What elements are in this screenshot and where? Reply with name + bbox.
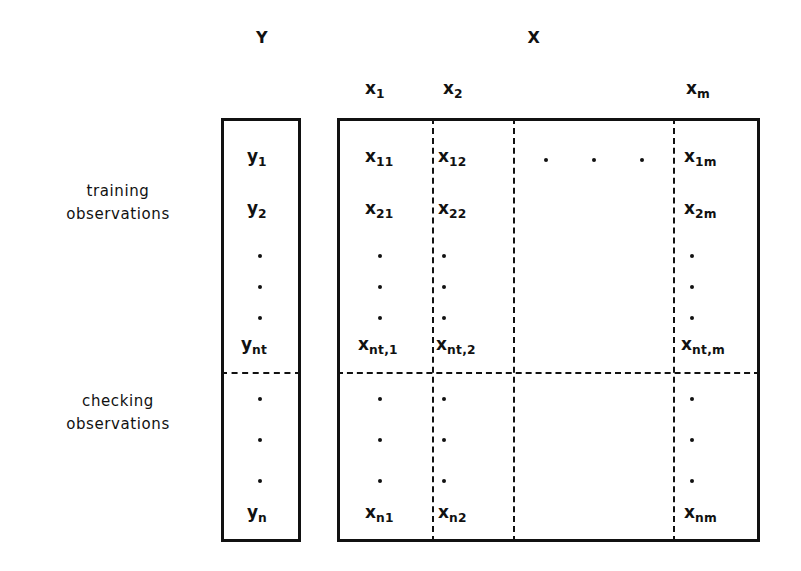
x-cell-nm-base: x bbox=[684, 502, 695, 522]
column-header-x2-base: x bbox=[443, 78, 454, 98]
row-group-label-checking-line2: observations bbox=[28, 413, 208, 436]
x-cell-nt-2-base: x bbox=[436, 334, 447, 354]
x-cell-2m-sub: 2m bbox=[695, 207, 717, 221]
x-colm-train-dot-3 bbox=[690, 316, 694, 320]
y-train-check-divider bbox=[221, 372, 301, 374]
y-cell-2-sub: 2 bbox=[258, 207, 267, 221]
x-row1-hdot-2 bbox=[592, 158, 596, 162]
x-col2-check-dot-3 bbox=[442, 479, 446, 483]
x-column-divider-3 bbox=[673, 118, 675, 542]
x-cell-nm-sub: nm bbox=[695, 511, 717, 525]
x-cell-21-sub: 21 bbox=[376, 207, 394, 221]
y-cell-n-sub: n bbox=[258, 511, 267, 525]
x-cell-nt-2: xnt,2 bbox=[436, 336, 476, 356]
x-matrix-box bbox=[337, 118, 760, 542]
x-cell-nt-m-sub: nt,m bbox=[692, 343, 725, 357]
x-cell-2m-base: x bbox=[684, 198, 695, 218]
x-cell-nm: xnm bbox=[684, 504, 717, 524]
column-header-xm-sub: m bbox=[697, 87, 710, 101]
x-cell-11: x11 bbox=[365, 148, 394, 168]
x-cell-22-base: x bbox=[438, 198, 449, 218]
x-column-divider-1 bbox=[432, 118, 434, 542]
x-cell-22-sub: 22 bbox=[449, 207, 467, 221]
x-col2-train-dot-3 bbox=[442, 316, 446, 320]
y-cell-nt-base: y bbox=[241, 334, 252, 354]
column-header-xm-base: x bbox=[686, 78, 697, 98]
x-cell-nt-m-base: x bbox=[681, 334, 692, 354]
x-cell-1m: x1m bbox=[684, 148, 717, 168]
group-label-y: Y bbox=[240, 30, 284, 46]
row-group-label-training: training observations bbox=[28, 180, 208, 225]
x-colm-train-dot-1 bbox=[690, 254, 694, 258]
y-cell-2-base: y bbox=[247, 198, 258, 218]
y-cell-nt: ynt bbox=[241, 336, 267, 356]
x-cell-nt-2-sub: nt,2 bbox=[447, 343, 476, 357]
y-ellipsis-dot-5 bbox=[258, 438, 262, 442]
row-group-label-checking-line1: checking bbox=[28, 390, 208, 413]
y-ellipsis-dot-6 bbox=[258, 479, 262, 483]
y-ellipsis-dot-2 bbox=[258, 285, 262, 289]
x-col1-train-dot-3 bbox=[378, 316, 382, 320]
x-cell-2m: x2m bbox=[684, 200, 717, 220]
x-colm-train-dot-2 bbox=[690, 285, 694, 289]
column-header-x1: x1 bbox=[365, 80, 385, 100]
column-header-x1-sub: 1 bbox=[376, 87, 385, 101]
y-cell-1-base: y bbox=[247, 146, 258, 166]
row-group-label-training-line2: observations bbox=[28, 203, 208, 226]
x-cell-1m-sub: 1m bbox=[695, 155, 717, 169]
x-train-check-divider bbox=[337, 372, 760, 374]
x-col1-train-dot-2 bbox=[378, 285, 382, 289]
x-cell-n1-sub: n1 bbox=[376, 511, 394, 525]
x-col1-check-dot-3 bbox=[378, 479, 382, 483]
y-cell-n: yn bbox=[247, 504, 267, 524]
row-group-label-checking: checking observations bbox=[28, 390, 208, 435]
x-col2-check-dot-2 bbox=[442, 438, 446, 442]
y-cell-1: y1 bbox=[247, 148, 267, 168]
x-colm-check-dot-3 bbox=[690, 479, 694, 483]
y-ellipsis-dot-3 bbox=[258, 316, 262, 320]
x-cell-n1-base: x bbox=[365, 502, 376, 522]
x-cell-nt-1-base: x bbox=[358, 334, 369, 354]
figure-canvas: Y X x1 x2 xm training observations check… bbox=[0, 0, 801, 571]
x-cell-11-sub: 11 bbox=[376, 155, 394, 169]
x-col2-check-dot-1 bbox=[442, 397, 446, 401]
x-column-divider-2 bbox=[513, 118, 515, 542]
x-cell-n2-sub: n2 bbox=[449, 511, 467, 525]
x-cell-12-base: x bbox=[438, 146, 449, 166]
x-cell-nt-1-sub: nt,1 bbox=[369, 343, 398, 357]
x-col1-check-dot-1 bbox=[378, 397, 382, 401]
x-cell-22: x22 bbox=[438, 200, 467, 220]
x-col2-train-dot-2 bbox=[442, 285, 446, 289]
column-header-x2-sub: 2 bbox=[454, 87, 463, 101]
column-header-xm: xm bbox=[686, 80, 710, 100]
y-cell-nt-sub: nt bbox=[252, 343, 267, 357]
x-cell-n2-base: x bbox=[438, 502, 449, 522]
x-cell-nt-1: xnt,1 bbox=[358, 336, 398, 356]
y-ellipsis-dot-4 bbox=[258, 397, 262, 401]
x-cell-11-base: x bbox=[365, 146, 376, 166]
x-cell-21: x21 bbox=[365, 200, 394, 220]
x-colm-check-dot-2 bbox=[690, 438, 694, 442]
x-cell-n2: xn2 bbox=[438, 504, 467, 524]
x-cell-1m-base: x bbox=[684, 146, 695, 166]
x-cell-21-base: x bbox=[365, 198, 376, 218]
x-row1-hdot-1 bbox=[544, 158, 548, 162]
y-cell-n-base: y bbox=[247, 502, 258, 522]
column-header-x2: x2 bbox=[443, 80, 463, 100]
x-colm-check-dot-1 bbox=[690, 397, 694, 401]
x-cell-12-sub: 12 bbox=[449, 155, 467, 169]
y-ellipsis-dot-1 bbox=[258, 254, 262, 258]
x-col1-check-dot-2 bbox=[378, 438, 382, 442]
x-cell-nt-m: xnt,m bbox=[681, 336, 725, 356]
column-header-x1-base: x bbox=[365, 78, 376, 98]
x-col2-train-dot-1 bbox=[442, 254, 446, 258]
x-cell-n1: xn1 bbox=[365, 504, 394, 524]
y-cell-1-sub: 1 bbox=[258, 155, 267, 169]
group-label-x: X bbox=[512, 30, 556, 46]
row-group-label-training-line1: training bbox=[28, 180, 208, 203]
x-cell-12: x12 bbox=[438, 148, 467, 168]
x-col1-train-dot-1 bbox=[378, 254, 382, 258]
y-cell-2: y2 bbox=[247, 200, 267, 220]
x-row1-hdot-3 bbox=[640, 158, 644, 162]
